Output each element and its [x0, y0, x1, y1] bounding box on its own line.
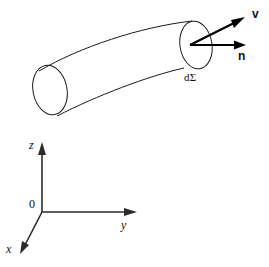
velocity-vector-label: v: [252, 8, 259, 20]
y-axis-label: y: [121, 219, 126, 231]
z-axis-label: z: [29, 139, 34, 151]
flow-tube-group: [29, 19, 216, 118]
origin-label: 0: [29, 198, 35, 210]
figure-canvas: [0, 0, 269, 267]
velocity-vector-shaft: [190, 22, 236, 45]
tube-upper-edge: [39, 21, 192, 71]
coordinate-axes-group: [20, 142, 137, 254]
x-axis-label: x: [6, 243, 11, 255]
velocity-vector-arrowhead: [231, 17, 245, 28]
tube-lower-edge: [57, 68, 184, 116]
surface-element-label: dΣ: [184, 72, 196, 83]
z-axis-arrowhead: [38, 142, 46, 155]
y-axis-arrowhead: [124, 208, 137, 216]
normal-vector-label: n: [238, 50, 245, 62]
x-axis-arrowhead: [20, 241, 29, 254]
tube-left-cap: [29, 62, 72, 118]
physics-flow-tube-figure: v n dΣ z y x 0: [0, 0, 269, 267]
x-axis-line: [25, 212, 42, 245]
